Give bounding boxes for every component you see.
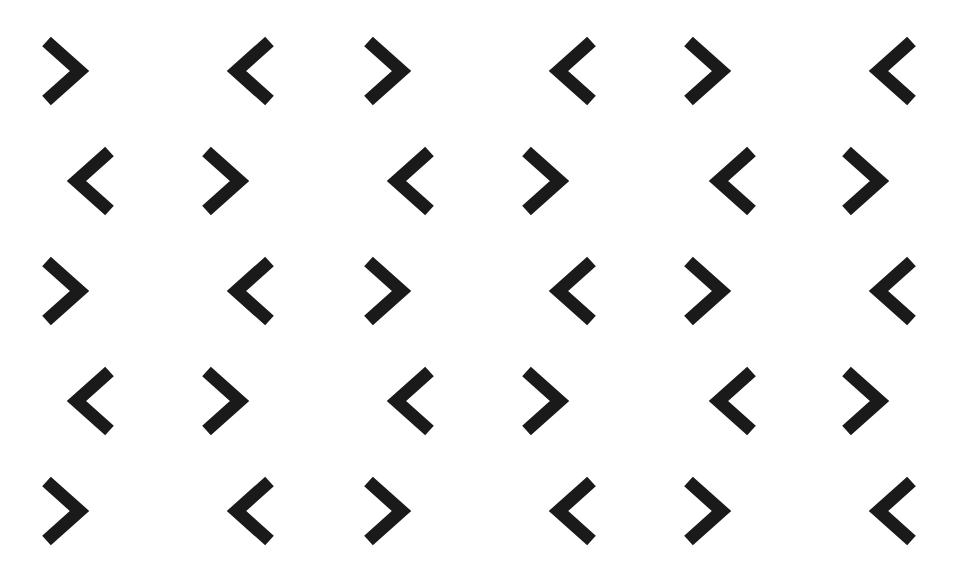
- chevron-right-icon: [200, 145, 246, 217]
- chevron-right-icon: [520, 365, 566, 437]
- chevron-right-icon: [362, 255, 408, 327]
- chevron-left-icon: [390, 145, 436, 217]
- chevron-pattern-canvas: [0, 0, 959, 573]
- chevron-stroke: [689, 482, 722, 541]
- chevron-stroke: [369, 482, 402, 541]
- chevron-stroke: [689, 42, 722, 101]
- chevron-left-icon: [230, 475, 276, 547]
- chevron-right-icon: [40, 35, 86, 107]
- chevron-right-icon: [362, 475, 408, 547]
- chevron-stroke: [559, 482, 592, 541]
- chevron-right-icon: [520, 145, 566, 217]
- chevron-stroke: [77, 152, 110, 211]
- chevron-stroke: [47, 482, 80, 541]
- chevron-left-icon: [552, 255, 598, 327]
- chevron-left-icon: [230, 255, 276, 327]
- chevron-left-icon: [872, 475, 918, 547]
- chevron-left-icon: [872, 255, 918, 327]
- chevron-right-icon: [362, 35, 408, 107]
- chevron-stroke: [527, 372, 560, 431]
- chevron-stroke: [207, 152, 240, 211]
- chevron-stroke: [719, 372, 752, 431]
- chevron-right-icon: [840, 365, 886, 437]
- chevron-stroke: [879, 262, 912, 321]
- chevron-right-icon: [682, 35, 728, 107]
- chevron-left-icon: [872, 35, 918, 107]
- chevron-stroke: [397, 152, 430, 211]
- chevron-right-icon: [682, 255, 728, 327]
- chevron-stroke: [237, 482, 270, 541]
- chevron-stroke: [847, 152, 880, 211]
- chevron-left-icon: [712, 365, 758, 437]
- chevron-stroke: [47, 262, 80, 321]
- chevron-stroke: [47, 42, 80, 101]
- chevron-right-icon: [682, 475, 728, 547]
- chevron-stroke: [847, 372, 880, 431]
- chevron-left-icon: [390, 365, 436, 437]
- chevron-stroke: [879, 482, 912, 541]
- chevron-right-icon: [40, 475, 86, 547]
- chevron-stroke: [879, 42, 912, 101]
- chevron-stroke: [559, 42, 592, 101]
- chevron-stroke: [237, 42, 270, 101]
- chevron-stroke: [397, 372, 430, 431]
- chevron-right-icon: [200, 365, 246, 437]
- chevron-left-icon: [230, 35, 276, 107]
- chevron-stroke: [369, 42, 402, 101]
- chevron-right-icon: [840, 145, 886, 217]
- chevron-left-icon: [70, 145, 116, 217]
- chevron-left-icon: [552, 475, 598, 547]
- chevron-left-icon: [70, 365, 116, 437]
- chevron-left-icon: [552, 35, 598, 107]
- chevron-stroke: [719, 152, 752, 211]
- chevron-stroke: [369, 262, 402, 321]
- chevron-stroke: [689, 262, 722, 321]
- chevron-right-icon: [40, 255, 86, 327]
- chevron-stroke: [77, 372, 110, 431]
- chevron-stroke: [207, 372, 240, 431]
- chevron-stroke: [559, 262, 592, 321]
- chevron-stroke: [527, 152, 560, 211]
- chevron-stroke: [237, 262, 270, 321]
- chevron-left-icon: [712, 145, 758, 217]
